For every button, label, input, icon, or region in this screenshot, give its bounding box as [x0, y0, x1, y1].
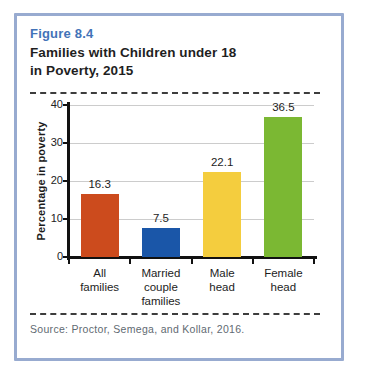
- bar-value-label: 16.3: [69, 178, 130, 190]
- y-tick-label: 30: [37, 136, 63, 148]
- figure-box: Figure 8.4 Families with Children under …: [14, 13, 344, 361]
- y-tick-label: 20: [37, 174, 63, 186]
- category-label: Female head: [249, 266, 318, 294]
- x-tick-mark: [68, 259, 70, 264]
- bar-value-label: 22.1: [192, 156, 253, 168]
- bar-2: [142, 228, 180, 258]
- category-label: Married couple families: [126, 266, 195, 308]
- y-tick-label: 10: [37, 212, 63, 224]
- source-citation: Source: Proctor, Semega, and Kollar, 201…: [30, 323, 245, 335]
- bar-value-label: 7.5: [130, 212, 191, 224]
- figure-number: Figure 8.4: [30, 26, 93, 41]
- top-dashed-divider: [30, 92, 320, 94]
- x-tick-mark: [191, 259, 193, 264]
- x-tick-mark: [313, 259, 315, 264]
- page: Figure 8.4 Families with Children under …: [0, 0, 365, 382]
- bar-4: [264, 117, 302, 257]
- x-tick-mark: [129, 259, 131, 264]
- category-label: Male head: [188, 266, 257, 294]
- bar-1: [81, 194, 119, 257]
- category-label: All families: [65, 266, 134, 294]
- y-tick-label: 0: [37, 250, 63, 262]
- figure-title: Families with Children under 18 in Pover…: [30, 44, 236, 80]
- x-tick-mark: [252, 259, 254, 264]
- chart: Percentage in poverty 01020304016.3All f…: [17, 96, 341, 310]
- y-tick-label: 40: [37, 98, 63, 110]
- bar-value-label: 36.5: [253, 101, 314, 113]
- bottom-dashed-divider: [30, 313, 320, 315]
- bar-3: [203, 172, 241, 257]
